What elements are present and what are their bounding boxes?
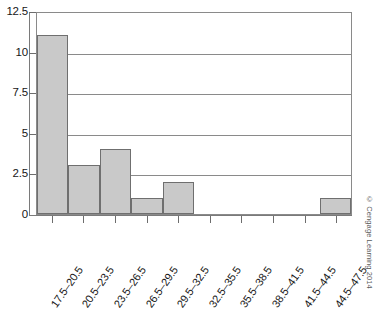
plot-area xyxy=(36,12,352,215)
x-tick-mark xyxy=(83,216,84,223)
y-tick-label: 5 xyxy=(22,128,28,140)
copyright-credit: © Cengage Learning 2014 xyxy=(365,195,373,289)
x-tick-mark xyxy=(52,216,53,223)
y-tick-mark xyxy=(29,12,36,13)
y-tick-label: 2.5 xyxy=(13,169,28,181)
y-tick-mark xyxy=(29,174,36,175)
bar-slot xyxy=(225,13,256,214)
bar-slot xyxy=(288,13,319,214)
x-axis: 17.5–20.520.5–23.523.5–26.526.5–29.529.5… xyxy=(36,215,352,291)
x-axis-spine xyxy=(29,215,352,216)
y-tick-mark xyxy=(29,134,36,135)
y-tick-mark xyxy=(29,53,36,54)
bar-slot xyxy=(257,13,288,214)
y-tick-label: 12.5 xyxy=(6,6,28,18)
x-tick-mark xyxy=(336,216,337,223)
bar[interactable] xyxy=(100,149,131,214)
y-tick-label: 7.5 xyxy=(13,87,28,99)
y-tick-label: 10 xyxy=(16,47,28,59)
bar[interactable] xyxy=(320,198,351,214)
bar-slot xyxy=(37,13,68,214)
bar-slot xyxy=(163,13,194,214)
bar-series xyxy=(37,13,351,214)
x-tick-mark xyxy=(305,216,306,223)
x-tick-mark xyxy=(147,216,148,223)
y-tick-label: 0 xyxy=(22,209,28,221)
x-tick-label: 44.5–47.5 xyxy=(333,265,369,310)
y-axis-spine xyxy=(29,12,30,215)
bar[interactable] xyxy=(37,35,68,214)
x-tick-mark xyxy=(273,216,274,223)
y-axis: 02.557.51012.5 xyxy=(0,0,40,291)
bar-slot xyxy=(320,13,351,214)
x-tick-mark xyxy=(115,216,116,223)
bar-slot xyxy=(100,13,131,214)
bar[interactable] xyxy=(68,165,99,214)
bar[interactable] xyxy=(163,182,194,214)
bar[interactable] xyxy=(131,198,162,214)
x-tick-mark xyxy=(241,216,242,223)
x-tick-mark xyxy=(210,216,211,223)
bar-slot xyxy=(131,13,162,214)
bar-slot xyxy=(194,13,225,214)
bar-slot xyxy=(68,13,99,214)
x-tick-mark xyxy=(178,216,179,223)
y-tick-mark xyxy=(29,93,36,94)
